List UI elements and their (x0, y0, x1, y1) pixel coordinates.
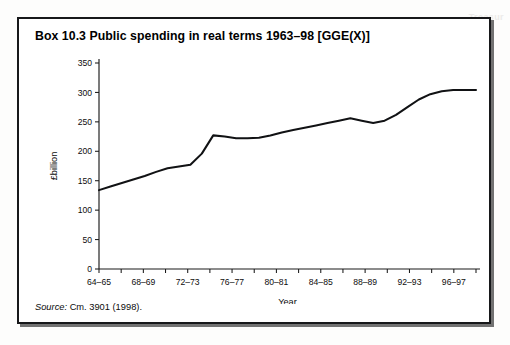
x-tick-label: 88–89 (353, 277, 377, 287)
y-tick-label: 200 (78, 146, 93, 156)
y-tick-label: 300 (78, 88, 93, 98)
y-tick-label: 350 (78, 58, 93, 68)
chart-area: 05010015020025030035064–6568–6972–7376–7… (27, 49, 483, 304)
source-label: Source: (35, 302, 67, 312)
x-tick-label: 92–93 (398, 277, 422, 287)
y-tick-label: 150 (78, 176, 93, 186)
box-figure-container: Box 10.3 Public spending in real terms 1… (17, 17, 491, 324)
box-title: Box 10.3 Public spending in real terms 1… (35, 29, 370, 43)
y-tick-label: 250 (78, 117, 93, 127)
x-axis-title: Year (278, 297, 297, 304)
y-axis-title: £billion (49, 152, 59, 181)
source-note: Source: Cm. 3901 (1998). (35, 302, 142, 312)
x-tick-label: 80–81 (264, 277, 288, 287)
y-tick-label: 0 (87, 264, 92, 274)
x-tick-label: 76–77 (220, 277, 244, 287)
x-tick-label: 96–97 (442, 277, 466, 287)
data-series-line (99, 90, 476, 190)
y-tick-label: 100 (78, 205, 93, 215)
x-tick-label: 72–73 (176, 277, 200, 287)
y-tick-label: 50 (82, 235, 92, 245)
line-chart: 05010015020025030035064–6568–6972–7376–7… (27, 49, 483, 304)
source-citation: Cm. 3901 (1998). (67, 302, 142, 312)
x-tick-label: 68–69 (131, 277, 155, 287)
x-tick-label: 64–65 (87, 277, 111, 287)
x-tick-label: 84–85 (309, 277, 333, 287)
